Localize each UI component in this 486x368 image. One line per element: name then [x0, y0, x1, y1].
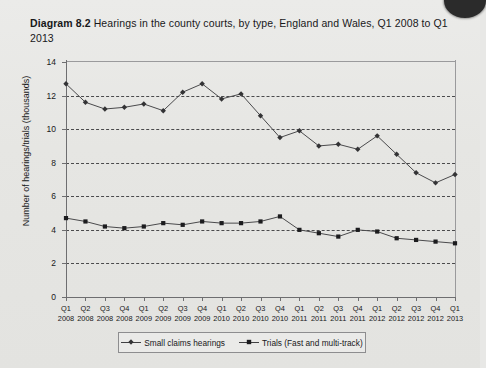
- data-point-s1-4: [142, 224, 146, 228]
- data-point-s1-8: [220, 221, 224, 225]
- data-point-s1-13: [317, 231, 321, 235]
- data-point-s0-19: [433, 180, 438, 185]
- data-point-s1-7: [200, 219, 204, 223]
- data-point-s0-4: [141, 101, 146, 106]
- data-point-s1-15: [356, 228, 360, 232]
- data-point-s1-17: [395, 236, 399, 240]
- data-point-s1-16: [375, 229, 379, 233]
- chart-legend: Small claims hearings Trials (Fast and m…: [118, 332, 366, 353]
- data-point-s1-20: [453, 241, 457, 245]
- figure-number: Diagram 8.2: [30, 17, 91, 29]
- data-point-s1-0: [64, 216, 68, 220]
- data-point-s1-9: [239, 221, 243, 225]
- data-point-s0-3: [122, 105, 127, 110]
- data-point-s1-12: [297, 228, 301, 232]
- figure-caption: Diagram 8.2 Hearings in the county court…: [30, 16, 450, 46]
- page-corner-artifact: [444, 0, 486, 18]
- legend-label-0: Small claims hearings: [144, 338, 225, 348]
- data-point-s1-6: [181, 223, 185, 227]
- legend-line-diamond-icon: [121, 342, 141, 343]
- data-point-s0-20: [452, 172, 457, 177]
- data-point-s0-2: [102, 106, 107, 111]
- legend-line-square-icon: [239, 342, 259, 343]
- series-line-0: [66, 84, 455, 183]
- data-point-s1-11: [278, 214, 282, 218]
- data-point-s1-2: [103, 224, 107, 228]
- data-point-s1-3: [122, 226, 126, 230]
- data-point-s1-1: [83, 219, 87, 223]
- legend-item-trials: Trials (Fast and multi-track): [239, 338, 363, 348]
- legend-item-small-claims-hearings: Small claims hearings: [121, 338, 225, 348]
- chart-container: Number of hearings/trials (thousands) 02…: [0, 54, 480, 368]
- data-point-s1-18: [414, 238, 418, 242]
- data-point-s0-14: [336, 142, 341, 147]
- data-point-s1-5: [161, 221, 165, 225]
- data-point-s1-19: [433, 240, 437, 244]
- legend-label-1: Trials (Fast and multi-track): [262, 338, 363, 348]
- figure-title: Hearings in the county courts, by type, …: [30, 17, 448, 44]
- data-point-s1-10: [258, 219, 262, 223]
- plot-series-layer: [0, 54, 480, 368]
- data-point-s1-14: [336, 234, 340, 238]
